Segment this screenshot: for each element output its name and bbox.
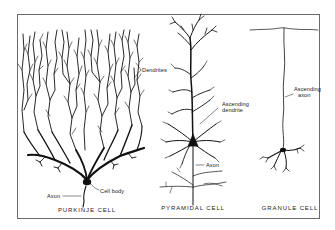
purkinje-cell-drawing	[18, 30, 144, 207]
label-cell-body: Cell body	[100, 188, 124, 195]
label-pyramidal-axon: Axon	[206, 162, 219, 169]
caption-pyramidal-cell: PYRAMIDAL CELL	[161, 205, 225, 211]
label-ascending-dendrite-line2: dendrite	[222, 107, 243, 114]
granule-cell-drawing	[250, 28, 318, 172]
label-dendrites: Dendrites	[142, 67, 167, 74]
neuron-diagram: Dendrites Cell body Axon PURKINJE CELL A…	[0, 0, 335, 230]
pyramidal-cell-drawing	[160, 14, 226, 205]
caption-granule-cell: GRANULE CELL	[262, 205, 318, 211]
label-ascending-axon-line2: axon	[298, 92, 311, 99]
label-purkinje-axon: Axon	[47, 193, 60, 200]
caption-purkinje-cell: PURKINJE CELL	[58, 207, 116, 213]
